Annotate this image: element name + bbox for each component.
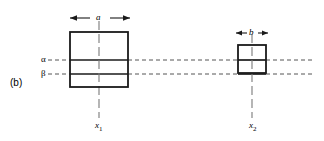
axis-label-x2: x2 — [249, 121, 257, 133]
dimension-label-b: b — [249, 28, 254, 37]
panel-label: (b) — [10, 78, 22, 88]
reference-label-beta: β — [41, 69, 46, 78]
reference-label-alpha: α — [41, 55, 46, 64]
figure-drawing — [0, 0, 324, 141]
axis-label-x1: x1 — [95, 121, 103, 133]
dimension-a-left-arrowhead — [70, 15, 77, 20]
axis-label-x1-subscript: 1 — [99, 125, 103, 133]
figure-container: (b) α β a b x1 x2 — [0, 0, 324, 141]
dimension-b-left-arrowhead — [236, 31, 242, 36]
dimension-a-right-arrowhead — [123, 15, 130, 20]
dimension-b-right-arrowhead — [262, 31, 268, 36]
axis-label-x2-subscript: 2 — [253, 125, 257, 133]
dimension-label-a: a — [96, 13, 101, 22]
